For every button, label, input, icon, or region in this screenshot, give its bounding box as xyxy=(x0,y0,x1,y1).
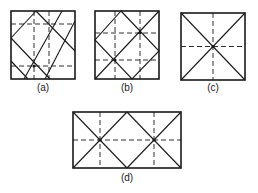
panel-b-drawing xyxy=(95,11,159,79)
panel-b: (b) xyxy=(95,11,159,79)
diagonal-line xyxy=(24,11,62,79)
panel-c: (c) xyxy=(181,13,245,80)
panel-b-label: (b) xyxy=(107,82,147,94)
panel-c-drawing xyxy=(181,13,245,80)
intersection-dot xyxy=(152,138,155,141)
panel-a-drawing xyxy=(11,11,75,79)
diagonal-line xyxy=(36,11,75,51)
main-diagonal xyxy=(95,11,159,79)
intersection-dot xyxy=(138,31,141,34)
panel-d: (d) xyxy=(73,112,181,168)
intersection-dot xyxy=(32,64,35,67)
diagonal-line xyxy=(11,38,50,79)
panel-d-drawing xyxy=(73,112,181,168)
panel-d-label: (d) xyxy=(107,172,147,184)
panel-a-label: (a) xyxy=(23,82,63,94)
center-dot xyxy=(211,45,214,48)
diagonal-line xyxy=(11,61,28,79)
intersection-dot xyxy=(98,138,101,141)
intersection-dot xyxy=(113,58,116,61)
panel-a: (a) xyxy=(11,11,75,79)
panel-c-label: (c) xyxy=(193,82,233,94)
diagonal-line xyxy=(45,21,75,79)
diagonal-line xyxy=(11,11,36,38)
